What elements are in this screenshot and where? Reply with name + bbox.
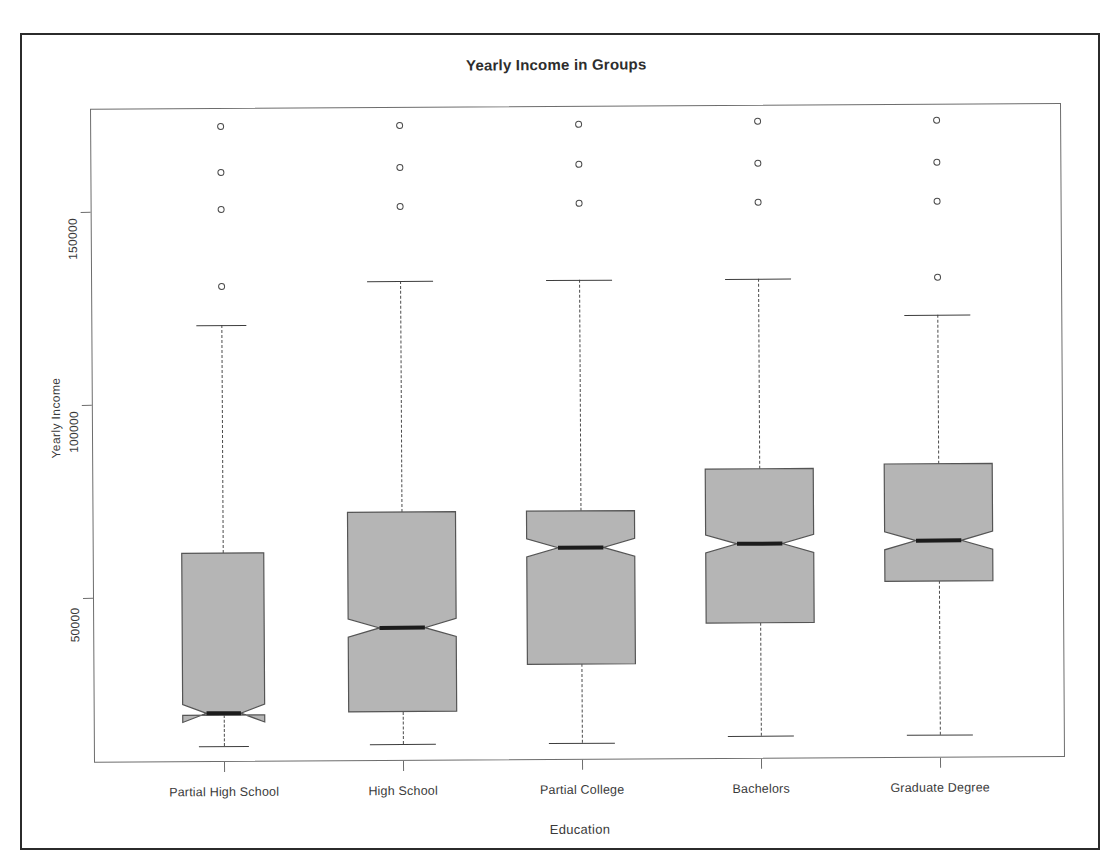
outlier-point[interactable] xyxy=(933,197,940,204)
lower-whisker-cap xyxy=(906,735,973,736)
boxplot-figure: Yearly Income in Groups Yearly Income Ed… xyxy=(0,0,1117,866)
outlier-point[interactable] xyxy=(933,116,940,123)
box-series xyxy=(0,0,1114,3)
box-polygon xyxy=(884,463,993,581)
box-shape xyxy=(854,433,1023,611)
upper-whisker-cap xyxy=(904,315,971,316)
outlier-point[interactable] xyxy=(933,159,940,166)
boxplot-box-5[interactable] xyxy=(0,0,1117,866)
outlier-point[interactable] xyxy=(934,274,941,281)
